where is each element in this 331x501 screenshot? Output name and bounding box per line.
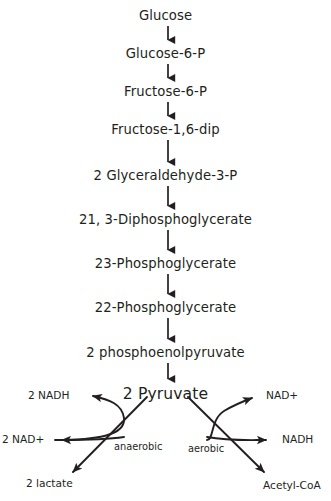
curve-nad-to-nadh-aerobic <box>207 437 266 440</box>
node-glucose-6-p: Glucose-6-P <box>0 46 331 61</box>
node-nad-plus-aerobic: NAD+ <box>266 389 298 401</box>
node-3-phosphoglycerate: 23-Phosphoglycerate <box>0 256 331 271</box>
glycolysis-diagram: Glucose Glucose-6-P Fructose-6-P Fructos… <box>0 0 331 501</box>
node-2-phosphoglycerate: 22-Phosphoglycerate <box>0 300 331 315</box>
curve-to-nad-plus-aerobic <box>207 398 252 440</box>
label-aerobic: aerobic <box>188 443 224 454</box>
arrow-pyruvate-to-acetyl-coa <box>188 397 264 472</box>
node-nad-plus-anaerobic: 2 NAD+ <box>2 433 44 445</box>
node-phosphoenolpyruvate: 2 phosphoenolpyruvate <box>0 345 331 360</box>
node-nadh-anaerobic: 2 NADH <box>28 389 69 401</box>
node-fructose-6-p: Fructose-6-P <box>0 84 331 99</box>
anaerobic-branch-group <box>55 396 147 472</box>
node-lactate: 2 lactate <box>26 477 73 489</box>
node-nadh-aerobic: NADH <box>282 433 313 445</box>
node-diphosphoglycerate: 21, 3-Diphosphoglycerate <box>0 212 331 227</box>
label-anaerobic: anaerobic <box>114 441 162 452</box>
node-acetyl-coa: Acetyl-CoA <box>263 479 321 491</box>
node-glyceraldehyde-3-p: 2 Glyceraldehyde-3-P <box>0 168 331 183</box>
pathway-arrows <box>0 0 331 501</box>
node-glucose: Glucose <box>0 8 331 23</box>
aerobic-branch-group <box>188 397 266 472</box>
node-fructose-1-6-dip: Fructose-1,6-dip <box>0 122 331 137</box>
